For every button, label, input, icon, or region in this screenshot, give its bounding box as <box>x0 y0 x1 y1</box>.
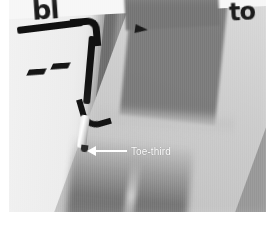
arrow-shaft <box>94 150 127 152</box>
annotation-label: Toe-third <box>131 146 171 157</box>
specimen-nick-mark <box>134 24 148 35</box>
annotation-callout: Toe-third <box>87 143 171 159</box>
printed-text-right: to <box>228 0 255 25</box>
arrow-left-icon <box>87 145 127 157</box>
photograph: bl to Toe-third <box>9 0 266 212</box>
printed-text-left: bl <box>31 0 59 24</box>
figure-root: bl to Toe-third <box>0 0 275 227</box>
probe-elbow-bend <box>70 17 101 48</box>
